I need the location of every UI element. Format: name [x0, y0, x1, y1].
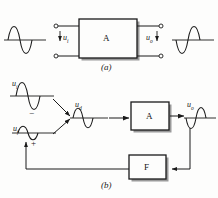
panel-b-output-signal-label: uo: [187, 100, 194, 111]
panel-b-output-waveform: [184, 108, 216, 129]
panel-a-block-label: A: [103, 33, 110, 43]
panel-a-caption: (a): [101, 62, 112, 72]
panel-b-feedback-path: [172, 128, 190, 169]
panel-b-feedback-signal-label: uf: [13, 124, 19, 135]
panel-b-feedback-label: F: [144, 162, 149, 172]
panel-b-summing-sign-bottom: +: [31, 139, 36, 148]
panel-b-summing-sign-top: −: [29, 109, 34, 118]
feedback-amplifier-figure: ui A uo (a) ui − uf + ud A uo F (b): [0, 0, 218, 198]
panel-b-amplifier-label: A: [146, 111, 153, 121]
figure-drawing: [0, 0, 218, 198]
panel-b-difference-signal-label: ud: [75, 100, 82, 111]
panel-b-feedback-return: [26, 142, 129, 169]
panel-b-input-signal-label: ui: [12, 79, 18, 90]
panel-b-summing-junction: [53, 99, 70, 134]
panel-a-input-waveform: [4, 27, 46, 54]
panel-a-output-voltage-label: uo: [146, 33, 153, 44]
panel-a-input-voltage-label: ui: [63, 33, 69, 44]
panel-b-caption: (b): [101, 180, 112, 190]
panel-a-output-waveform: [172, 27, 214, 54]
panel-b-difference-waveform: [70, 108, 108, 128]
